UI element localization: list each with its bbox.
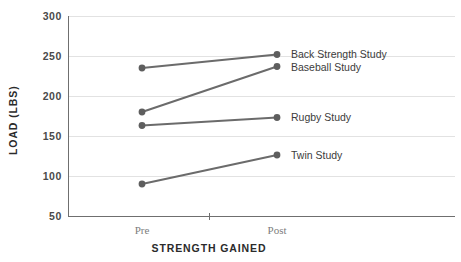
series-label-rugby: Rugby Study [291,111,352,123]
series-line-baseball [142,67,277,113]
series-label-back-strength: Back Strength Study [291,48,387,60]
series-baseball-study[interactable]: Baseball Study [139,61,362,115]
slope-chart: 300 250 200 150 100 50 LOAD (LBS) Pre Po… [0,0,461,262]
y-tick-150: 150 [43,130,62,142]
y-tick-200: 200 [43,90,62,102]
y-tick-300: 300 [43,10,62,22]
series-line-rugby [142,118,277,126]
data-point-baseball-pre[interactable] [139,109,146,116]
x-tick-post: Post [268,224,287,236]
data-point-back-strength-post[interactable] [274,51,281,58]
y-axis-title: LOAD (LBS) [7,85,19,155]
data-point-back-strength-pre[interactable] [139,65,146,72]
chart-canvas: 300 250 200 150 100 50 LOAD (LBS) Pre Po… [0,0,461,262]
series-twin-study[interactable]: Twin Study [139,149,344,187]
data-point-rugby-post[interactable] [274,114,281,121]
data-point-twin-post[interactable] [274,152,281,159]
x-tick-labels: Pre Post [135,224,287,236]
data-point-twin-pre[interactable] [139,181,146,188]
y-tick-250: 250 [43,50,62,62]
series-label-twin: Twin Study [291,149,343,161]
series-line-twin [142,155,277,184]
y-tick-50: 50 [49,210,62,222]
data-point-baseball-post[interactable] [274,63,281,70]
y-tick-100: 100 [43,170,62,182]
data-point-rugby-pre[interactable] [139,122,146,129]
x-tick-pre: Pre [135,224,150,236]
series-rugby-study[interactable]: Rugby Study [139,111,352,129]
series-label-baseball: Baseball Study [291,61,362,73]
x-axis-title: STRENGTH GAINED [151,242,266,254]
gridlines [68,17,455,177]
y-tick-labels: 300 250 200 150 100 50 [43,10,62,222]
